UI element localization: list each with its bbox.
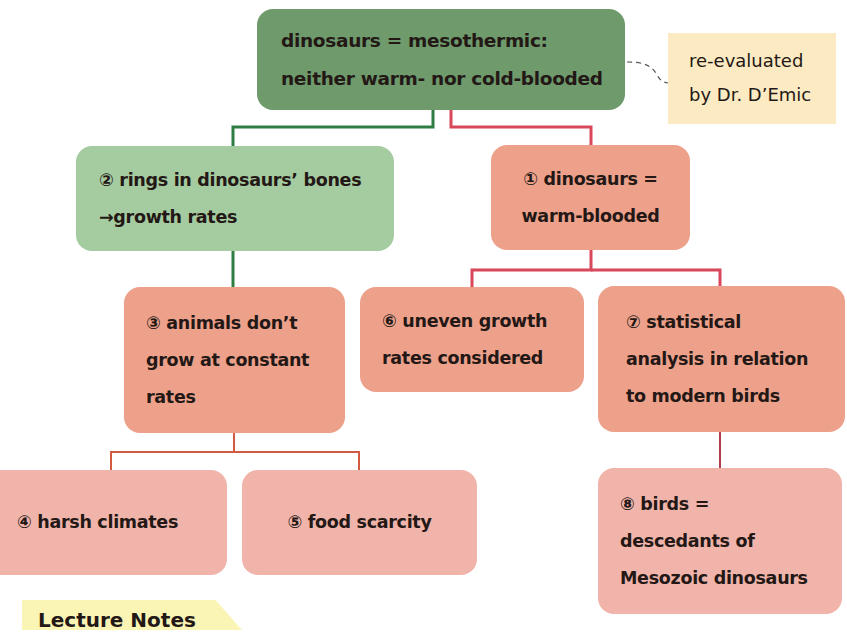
- node-1-warm-blooded: ① dinosaurs = warm-blooded: [491, 145, 690, 250]
- edge-n1-to-n6: [472, 250, 591, 287]
- node-8-birds-descendants: ⑧ birds = descedants of Mesozoic dinosau…: [598, 468, 842, 614]
- note-line-1: re-evaluated: [689, 44, 836, 78]
- node-6-line-2: rates considered: [382, 340, 584, 377]
- node-7-line-3: to modern birds: [626, 378, 845, 415]
- node-7-statistical-analysis: ⑦ statistical analysis in relation to mo…: [598, 286, 845, 432]
- node-1-line-2: warm-blooded: [522, 198, 660, 235]
- root-node: dinosaurs = mesothermic: neither warm- n…: [257, 9, 625, 110]
- node-8-line-1: ⑧ birds =: [620, 486, 842, 523]
- node-4-harsh-climates: ④ harsh climates: [0, 470, 227, 575]
- node-2-line-2: →growth rates: [99, 199, 394, 236]
- node-3-line-2: grow at constant: [146, 342, 345, 379]
- root-line-1: dinosaurs = mesothermic:: [281, 22, 625, 60]
- node-2-line-1: ② rings in dinosaurs’ bones: [99, 162, 394, 199]
- root-line-2: neither warm- nor cold-blooded: [281, 60, 625, 98]
- lecture-notes-label: Lecture Notes: [38, 608, 196, 632]
- edge-root-to-note: [627, 62, 668, 83]
- node-3-growth-rates: ③ animals don’t grow at constant rates: [124, 287, 345, 433]
- note-line-2: by Dr. D’Emic: [689, 78, 836, 112]
- node-3-line-1: ③ animals don’t: [146, 305, 345, 342]
- node-7-line-2: analysis in relation: [626, 341, 845, 378]
- node-6-line-1: ⑥ uneven growth: [382, 303, 584, 340]
- node-4-line-1: ④ harsh climates: [17, 504, 227, 541]
- node-5-food-scarcity: ⑤ food scarcity: [242, 470, 477, 575]
- edge-n3-to-n4: [111, 433, 234, 470]
- node-8-line-3: Mesozoic dinosaurs: [620, 560, 842, 597]
- node-5-line-1: ⑤ food scarcity: [287, 504, 431, 541]
- edge-root-to-n1: [451, 110, 591, 145]
- edge-n1-to-n7: [591, 270, 720, 286]
- edge-n3-to-n5: [234, 452, 359, 470]
- node-6-uneven-growth: ⑥ uneven growth rates considered: [360, 287, 584, 392]
- node-8-line-2: descedants of: [620, 523, 842, 560]
- edge-root-to-n2: [233, 110, 433, 146]
- lecture-notes-tab: Lecture Notes: [22, 600, 242, 630]
- node-2-bone-rings: ② rings in dinosaurs’ bones →growth rate…: [76, 146, 394, 251]
- node-7-line-1: ⑦ statistical: [626, 304, 845, 341]
- annotation-note: re-evaluated by Dr. D’Emic: [668, 33, 836, 124]
- node-3-line-3: rates: [146, 379, 345, 416]
- node-1-line-1: ① dinosaurs =: [523, 161, 658, 198]
